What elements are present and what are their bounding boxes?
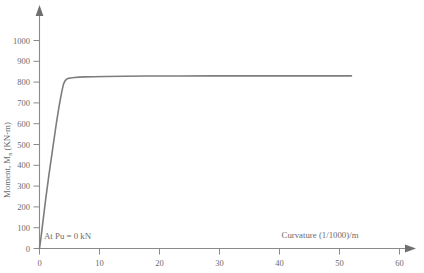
svg-text:Moment, Mn (KN-m): Moment, Mn (KN-m) [2,122,13,198]
y-tick-label: 300 [17,181,30,191]
y-axis-title-tail: (KN-m) [2,122,12,153]
y-tick-label: 200 [17,202,30,212]
moment-curvature-figure: 0 100 200 300 400 500 600 700 800 900 10… [0,0,424,273]
y-tick-label: 1000 [13,36,30,46]
y-tick-label: 700 [17,98,30,108]
y-tick-label: 100 [17,223,30,233]
y-tick-label: 800 [17,77,30,87]
x-axis-title: Curvature (1/1000)/m [282,230,359,240]
y-tick-label: 400 [17,160,30,170]
x-tick-label: 0 [37,258,41,268]
x-tick-label: 10 [95,258,104,268]
chart-canvas: 0 100 200 300 400 500 600 700 800 900 10… [0,0,424,273]
x-tick-label: 50 [335,258,344,268]
y-tick-label: 0 [26,244,30,254]
y-tick-label: 900 [17,56,30,66]
y-axis-title-main: Moment, M [2,156,12,198]
x-tick-label: 20 [155,258,164,268]
x-tick-label: 30 [215,258,224,268]
y-tick-label: 500 [17,140,30,150]
load-annotation: At Pu = 0 kN [44,231,92,241]
y-tick-label: 600 [17,119,30,129]
y-axis-title: Moment, Mn (KN-m) [2,122,13,198]
x-tick-label: 60 [395,258,404,268]
x-tick-label: 40 [275,258,284,268]
